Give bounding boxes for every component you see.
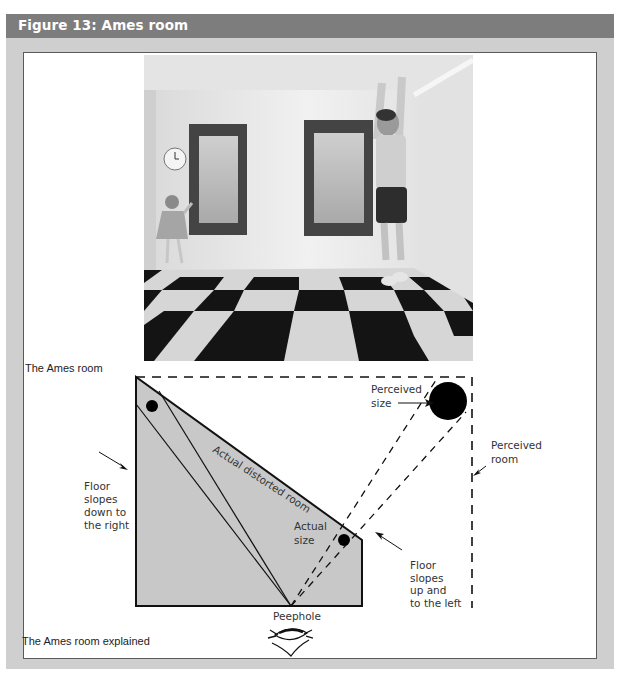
- actual-size-dot: [338, 534, 350, 546]
- perceived-size-label: Perceived size: [371, 382, 422, 410]
- eye-icon: [268, 629, 313, 656]
- perceived-room-label: Perceived room: [491, 438, 542, 466]
- diagram-caption: The Ames room explained: [22, 635, 150, 647]
- far-person-dot: [146, 400, 158, 412]
- actual-size-label: Actual size: [294, 519, 327, 547]
- floor-slopes-down-label: Floor slopes down to the right: [84, 480, 129, 532]
- ames-room-diagram: [0, 0, 620, 674]
- actual-room-outline: [136, 377, 362, 606]
- perceived-size-dot: [429, 382, 467, 420]
- floor-slopes-up-label: Floor slopes up and to the left: [410, 559, 461, 609]
- peephole-label: Peephole: [273, 609, 321, 623]
